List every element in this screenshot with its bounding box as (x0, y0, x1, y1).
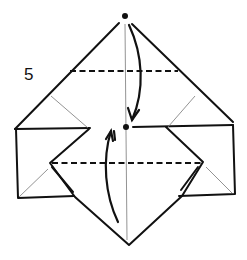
step-number: 5 (24, 66, 33, 83)
origami-diagram: 5 (0, 0, 247, 260)
left-flap (16, 96, 88, 198)
center-dot (123, 124, 129, 130)
center-crease (125, 24, 127, 240)
right-flap (168, 96, 235, 196)
top-point-dot (122, 13, 128, 19)
fold-up-arrow (106, 131, 118, 222)
fold-down-arrow (128, 25, 141, 120)
diagram-canvas (0, 0, 247, 260)
upper-triangle (15, 23, 233, 129)
